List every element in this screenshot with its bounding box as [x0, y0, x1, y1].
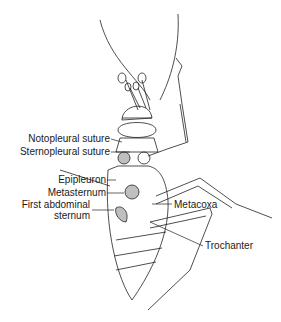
leader-lines: [0, 0, 281, 322]
